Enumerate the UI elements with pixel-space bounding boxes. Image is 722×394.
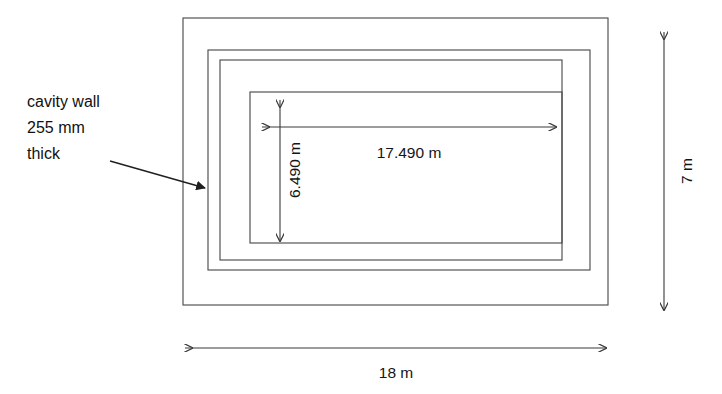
floor-plan-canvas: 17.490 m 6.490 m 7 m 18 m cavity wall 25…: [0, 0, 722, 394]
floor-plan-diagram: 17.490 m 6.490 m 7 m 18 m cavity wall 25…: [0, 0, 722, 394]
cavity-wall-leader: [110, 161, 205, 188]
overall-height-label: 7 m: [678, 158, 695, 184]
cavity-wall-annotation: cavity wall 255 mm thick: [27, 93, 100, 162]
internal-width-label: 6.490 m: [286, 142, 303, 198]
cavity-wall-leader-line: [110, 161, 205, 188]
internal-width-dimension: 6.490 m: [280, 100, 303, 241]
internal-length-label: 17.490 m: [377, 144, 442, 161]
overall-width-label: 18 m: [379, 364, 413, 381]
cavity-wall-annotation-line-3: thick: [27, 145, 61, 162]
wall-outline-group: [183, 18, 608, 305]
cavity-wall-annotation-line-2: 255 mm: [27, 119, 85, 136]
cavity-wall-annotation-line-1: cavity wall: [27, 93, 100, 110]
outer-boundary-rect: [183, 18, 608, 305]
overall-height-dimension: 7 m: [664, 32, 695, 310]
internal-length-dimension: 17.490 m: [262, 127, 556, 161]
overall-width-dimension: 18 m: [185, 348, 606, 381]
